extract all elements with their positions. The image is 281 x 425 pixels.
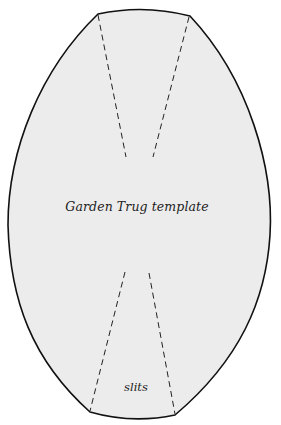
template-outline — [8, 9, 270, 418]
template-title: Garden Trug template — [65, 199, 208, 214]
slits-label: slits — [124, 380, 148, 394]
